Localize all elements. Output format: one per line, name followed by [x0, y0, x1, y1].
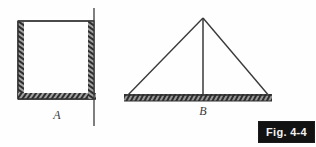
bottom-support-hatching: [18, 93, 96, 99]
triangle-right-side: [203, 18, 270, 97]
diagram-a-label: A: [50, 108, 64, 123]
square-outline: [18, 21, 94, 99]
figure-caption-text: Fig. 4-4: [266, 126, 307, 138]
diagram-b-triangle: [124, 18, 272, 101]
diagram-b-label: B: [196, 104, 210, 119]
triangle-left-side: [126, 18, 203, 97]
figure-caption-badge: Fig. 4-4: [258, 121, 315, 143]
left-support-hatching: [18, 21, 24, 99]
right-support-hatching: [88, 21, 94, 99]
figure-4-4: A B Fig. 4-4: [0, 0, 316, 147]
